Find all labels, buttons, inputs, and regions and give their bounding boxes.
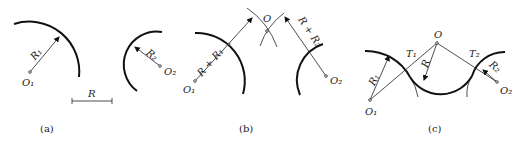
caption-a: (a) [40,123,54,134]
label-o1-b: O₁ [183,84,195,95]
label-o2: O₂ [164,66,176,77]
part-a: R₁ O₁ R₂ O₂ R (a) [14,22,176,134]
part-c: R₁ T₁ O R T₂ R₂ O₁ O₂ (c) [365,29,512,134]
label-o1: O₁ [22,77,34,88]
part-b: R + R₁ O₁ O R + R₂ O₂ (b) [183,8,342,134]
arc-r-connecting [410,76,472,94]
center-o1-point [29,71,32,74]
line-o-o2 [437,43,497,82]
label-o-b: O [263,13,271,24]
label-o-c: O [434,29,442,40]
label-t2: T₂ [469,48,480,59]
caption-c: (c) [428,123,442,134]
label-r2: R₂ [144,46,161,62]
center-o1-c-point [369,99,372,102]
center-o-c-point [436,42,439,45]
center-o2-b-point [325,75,328,78]
label-r1: R₁ [28,46,44,63]
label-o2-c: O₂ [500,85,512,96]
label-scale-r: R [87,88,96,99]
label-r-c: R [419,58,432,70]
caption-b: (b) [239,123,253,134]
label-o2-b: O₂ [330,75,342,86]
point-on-arc-r1 [228,43,230,45]
center-o-b-point [266,30,269,33]
arc-r1 [14,22,79,77]
label-o1-c: O₁ [365,106,377,117]
label-r-plus-r1: R + R₁ [194,46,225,79]
label-r-plus-r2: R + R₂ [296,14,325,49]
center-o2-point [159,65,162,68]
arc-connection-diagram: R₁ O₁ R₂ O₂ R (a) R + R₁ O₁ O R + R₂ [0,0,524,149]
arc-r2-b [297,44,323,95]
label-t1: T₁ [406,48,417,59]
center-o2-c-point [496,81,499,84]
label-r2-c: R₂ [486,58,503,74]
center-o1-b-point [194,80,197,83]
arc-r2 [124,32,162,91]
label-r1-c: R₁ [366,72,382,88]
